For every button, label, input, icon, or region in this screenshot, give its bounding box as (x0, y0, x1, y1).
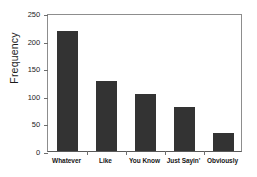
y-axis-tick-label: 100 (0, 92, 40, 101)
y-axis-tick (44, 98, 48, 99)
bar (96, 81, 117, 151)
y-axis-tick (44, 43, 48, 44)
x-axis-tick-label: You Know (129, 157, 160, 164)
x-axis-tick-label: Just Sayin' (167, 157, 201, 164)
x-axis-tick-label: Whatever (52, 157, 81, 164)
y-axis-tick (44, 153, 48, 154)
y-axis-tick-label: 250 (0, 10, 40, 19)
x-axis-tick-label: Obviously (207, 157, 238, 164)
bar-chart: Frequency 050100150200250 WhateverLikeYo… (0, 0, 257, 177)
y-axis-tick (44, 15, 48, 16)
x-axis-tick (126, 151, 127, 155)
x-axis-tick (87, 151, 88, 155)
y-axis-tick-label: 50 (0, 120, 40, 129)
x-axis-tick (204, 151, 205, 155)
y-axis-title: Frequency (8, 13, 20, 103)
y-axis-tick (44, 125, 48, 126)
x-axis-tick (165, 151, 166, 155)
y-axis-tick-label: 0 (0, 148, 40, 157)
y-axis-tick-label: 200 (0, 37, 40, 46)
plot-area (47, 14, 242, 152)
x-axis-tick-label: Like (99, 157, 112, 164)
bar (135, 94, 156, 151)
bar (213, 133, 234, 151)
bar (57, 31, 78, 151)
y-axis-tick (44, 70, 48, 71)
bar (174, 107, 195, 151)
y-axis-tick-label: 150 (0, 65, 40, 74)
